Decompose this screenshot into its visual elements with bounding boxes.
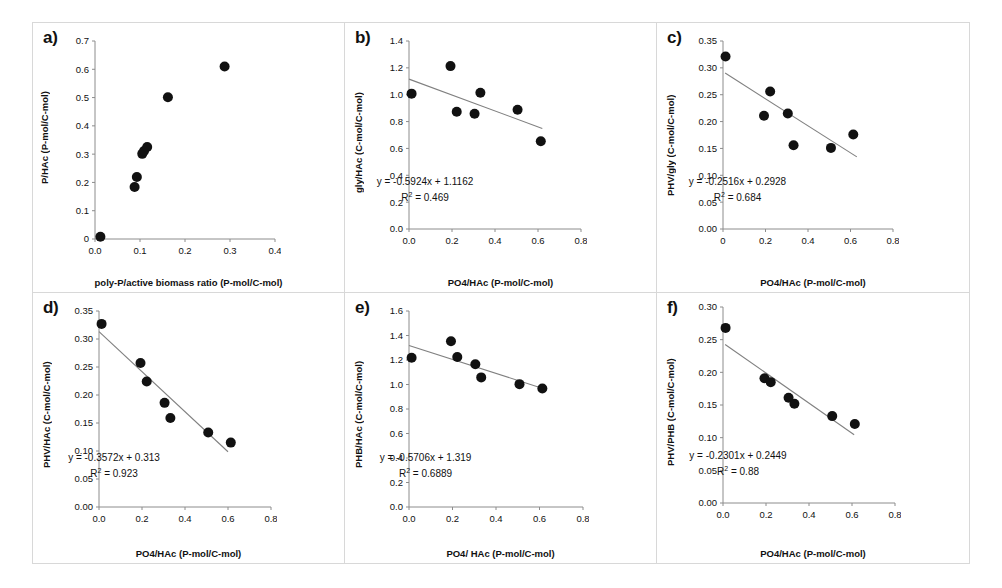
equation-line: y = -0.5706x + 1.319 <box>380 452 472 463</box>
figure-root: a) P/HAc (P-mol/C-mol) 00.10.20.30.40.50… <box>0 0 1002 588</box>
svg-text:0.00: 0.00 <box>75 501 94 512</box>
svg-text:0.10: 0.10 <box>699 432 718 443</box>
svg-text:0.0: 0.0 <box>88 245 101 256</box>
svg-text:0.20: 0.20 <box>75 389 94 400</box>
svg-text:0.6: 0.6 <box>390 143 403 154</box>
svg-text:0.3: 0.3 <box>223 245 236 256</box>
svg-text:0.7: 0.7 <box>76 35 89 46</box>
x-axis-label-d: PO4/HAc (P-mol/C-mol) <box>33 548 344 559</box>
svg-text:0.0: 0.0 <box>402 235 415 246</box>
panel-e: e) PHB/HAc (C-mol/C-mol) 0.00.20.40.60.8… <box>345 293 657 563</box>
plot-area-b: 0.00.20.40.60.81.01.21.40.00.20.40.60.8 <box>363 31 587 253</box>
svg-text:1.2: 1.2 <box>390 62 403 73</box>
svg-text:0.4: 0.4 <box>178 513 191 524</box>
svg-text:0.2: 0.2 <box>135 513 148 524</box>
svg-text:1.4: 1.4 <box>390 330 403 341</box>
svg-text:0.15: 0.15 <box>699 143 718 154</box>
x-axis-label-c: PO4/HAc (P-mol/C-mol) <box>657 277 969 288</box>
svg-text:0.8: 0.8 <box>888 509 901 520</box>
svg-text:0.8: 0.8 <box>576 513 589 524</box>
svg-text:0.8: 0.8 <box>390 116 403 127</box>
svg-text:0.15: 0.15 <box>75 417 94 428</box>
svg-text:0.00: 0.00 <box>699 497 718 508</box>
equation-f: y = -0.2301x + 0.2449R2 = 0.88 <box>657 449 819 479</box>
svg-text:0.20: 0.20 <box>699 367 718 378</box>
r-squared-line: R2 = 0.6889 <box>399 468 452 479</box>
svg-text:0.25: 0.25 <box>699 334 718 345</box>
svg-text:0.2: 0.2 <box>76 177 89 188</box>
svg-text:0.20: 0.20 <box>699 116 718 127</box>
svg-text:0.8: 0.8 <box>264 513 277 524</box>
svg-text:0.2: 0.2 <box>759 509 772 520</box>
r-squared-line: R2 = 0.88 <box>717 466 759 477</box>
svg-text:0.0: 0.0 <box>402 513 415 524</box>
plot-area-c: 0.000.050.100.150.200.250.300.3500.20.40… <box>677 31 899 253</box>
svg-text:0.2: 0.2 <box>445 235 458 246</box>
svg-text:0.4: 0.4 <box>801 235 814 246</box>
svg-text:0.6: 0.6 <box>531 235 544 246</box>
equation-line: y = -0.2301x + 0.2449 <box>689 450 786 461</box>
panel-b: b) gly/HAc (C-mol/C-mol) 0.00.20.40.60.8… <box>345 23 657 293</box>
svg-text:0.6: 0.6 <box>533 513 546 524</box>
svg-text:0.6: 0.6 <box>221 513 234 524</box>
svg-text:0.0: 0.0 <box>390 223 403 234</box>
svg-text:0.6: 0.6 <box>76 64 89 75</box>
svg-text:0.4: 0.4 <box>489 513 502 524</box>
svg-text:0.25: 0.25 <box>75 361 94 372</box>
equation-b: y = -0.5924x + 1.1162R2 = 0.469 <box>345 175 505 205</box>
svg-text:0.4: 0.4 <box>488 235 501 246</box>
equation-e: y = -0.5706x + 1.319R2 = 0.6889 <box>345 451 506 481</box>
r-squared-line: R2 = 0.469 <box>401 192 449 203</box>
svg-text:0: 0 <box>720 235 725 246</box>
svg-text:0.3: 0.3 <box>76 149 89 160</box>
svg-text:0.30: 0.30 <box>75 333 94 344</box>
panel-d: d) PHV/HAc (C-mol/C-mol) 0.000.050.100.1… <box>33 293 345 563</box>
svg-text:0.6: 0.6 <box>845 509 858 520</box>
svg-text:0: 0 <box>84 233 89 244</box>
svg-text:0.1: 0.1 <box>76 205 89 216</box>
r-squared-line: R2 = 0.923 <box>90 468 138 479</box>
svg-text:0.8: 0.8 <box>574 235 587 246</box>
panel-a: a) P/HAc (P-mol/C-mol) 00.10.20.30.40.50… <box>33 23 345 293</box>
equation-d: y = -0.3572x + 0.313R2 = 0.923 <box>33 451 195 481</box>
plot-area-a: 00.10.20.30.40.50.60.70.00.10.20.30.4 <box>49 31 281 263</box>
svg-text:0.1: 0.1 <box>133 245 146 256</box>
svg-text:0.2: 0.2 <box>446 513 459 524</box>
svg-text:0.0: 0.0 <box>92 513 105 524</box>
equation-line: y = -0.5924x + 1.1162 <box>377 176 474 187</box>
plot-area-e: 0.00.20.40.60.81.01.21.41.60.00.20.40.60… <box>363 301 589 531</box>
svg-text:0.35: 0.35 <box>699 35 718 46</box>
svg-text:0.5: 0.5 <box>76 92 89 103</box>
svg-text:0.4: 0.4 <box>268 245 281 256</box>
equation-line: y = -0.2516x + 0.2928 <box>689 176 786 187</box>
svg-text:1.2: 1.2 <box>390 354 403 365</box>
svg-text:0.0: 0.0 <box>390 501 403 512</box>
svg-text:1.6: 1.6 <box>390 305 403 316</box>
plot-area-d: 0.000.050.100.150.200.250.300.350.00.20.… <box>53 301 277 531</box>
svg-text:0.8: 0.8 <box>390 403 403 414</box>
svg-text:0.2: 0.2 <box>759 235 772 246</box>
svg-text:0.8: 0.8 <box>886 235 899 246</box>
svg-text:0.35: 0.35 <box>75 305 94 316</box>
svg-text:0.0: 0.0 <box>716 509 729 520</box>
svg-text:0.6: 0.6 <box>390 428 403 439</box>
svg-text:0.30: 0.30 <box>699 62 718 73</box>
svg-text:0.15: 0.15 <box>699 399 718 410</box>
svg-text:1.0: 1.0 <box>390 89 403 100</box>
panel-f: f) PHV/PHB (C-mol/C-mol) 0.000.050.100.1… <box>657 293 969 563</box>
x-axis-label-f: PO4/HAc (P-mol/C-mol) <box>657 548 969 559</box>
svg-text:0.4: 0.4 <box>76 120 89 131</box>
svg-text:0.30: 0.30 <box>699 301 718 312</box>
svg-text:0.00: 0.00 <box>699 223 718 234</box>
svg-text:0.2: 0.2 <box>178 245 191 256</box>
svg-text:1.4: 1.4 <box>390 35 403 46</box>
x-axis-label-b: PO4/HAc (P-mol/C-mol) <box>345 277 656 288</box>
svg-text:1.0: 1.0 <box>390 379 403 390</box>
r-squared-line: R2 = 0.684 <box>714 192 762 203</box>
plot-area-f: 0.000.050.100.150.200.250.300.00.20.40.6… <box>677 297 901 527</box>
panel-c: c) PHV/gly (C-mol/C-mol) 0.000.050.100.1… <box>657 23 969 293</box>
svg-text:0.25: 0.25 <box>699 89 718 100</box>
x-axis-label-e: PO4/ HAc (P-mol/C-mol) <box>345 548 656 559</box>
equation-c: y = -0.2516x + 0.2928R2 = 0.684 <box>657 175 818 205</box>
svg-text:0.6: 0.6 <box>844 235 857 246</box>
